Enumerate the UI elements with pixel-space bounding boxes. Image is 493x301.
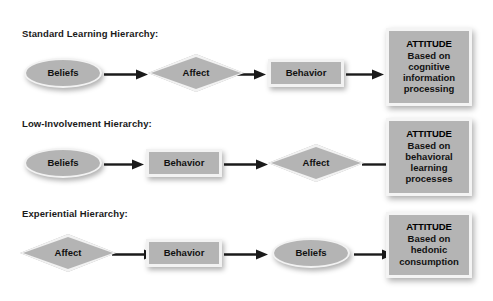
- node-beliefs-row2[interactable]: Beliefs: [24, 148, 102, 178]
- attitude-title-row2: ATTITUDE: [406, 129, 451, 140]
- node-behavior-row2[interactable]: Behavior: [146, 149, 222, 177]
- arrow-row1-1: [104, 69, 148, 80]
- node-behavior-row3[interactable]: Behavior: [146, 239, 222, 267]
- node-behavior-row1[interactable]: Behavior: [268, 59, 344, 87]
- attitude-description-row1: Based on cognitive information processin…: [392, 50, 466, 95]
- node-label-behavior-row1: Behavior: [286, 68, 327, 78]
- node-label-affect-row1: Affect: [183, 68, 210, 78]
- node-affect-row3[interactable]: Affect: [20, 234, 116, 272]
- node-label-behavior-row2: Behavior: [164, 158, 205, 168]
- arrow-row3-2: [224, 249, 268, 260]
- row-label-low-involvement: Low-Involvement Hierarchy:: [22, 118, 152, 129]
- node-label-affect-row2: Affect: [303, 158, 330, 168]
- row-label-standard-learning: Standard Learning Hierarchy:: [22, 28, 158, 39]
- attitude-description-row2: Based on behavioral learning processes: [392, 140, 466, 185]
- attitude-description-row3: Based on hedonic consumption: [392, 233, 466, 267]
- node-label-beliefs-row2: Beliefs: [47, 158, 78, 168]
- arrow-row2-1: [104, 159, 144, 170]
- attitude-title-row1: ATTITUDE: [406, 39, 451, 50]
- node-label-behavior-row3: Behavior: [164, 248, 205, 258]
- node-label-beliefs-row3: Beliefs: [295, 248, 326, 258]
- node-beliefs-row3[interactable]: Beliefs: [272, 238, 350, 268]
- attitude-box-row2[interactable]: ATTITUDE Based on behavioral learning pr…: [386, 118, 472, 196]
- attitude-box-row3[interactable]: ATTITUDE Based on hedonic consumption: [386, 212, 472, 278]
- attitude-title-row3: ATTITUDE: [406, 222, 451, 233]
- attitude-box-row1[interactable]: ATTITUDE Based on cognitive information …: [386, 28, 472, 106]
- node-label-beliefs-row1: Beliefs: [47, 68, 78, 78]
- node-label-affect-row3: Affect: [55, 248, 82, 258]
- node-affect-row1[interactable]: Affect: [148, 54, 244, 92]
- arrow-row2-2: [224, 159, 268, 170]
- row-label-experiential: Experiential Hierarchy:: [22, 208, 128, 219]
- hierarchy-of-effects-diagram: Standard Learning Hierarchy: Beliefs Aff…: [0, 0, 493, 301]
- arrow-row1-3: [346, 69, 384, 80]
- node-beliefs-row1[interactable]: Beliefs: [24, 58, 102, 88]
- node-affect-row2[interactable]: Affect: [268, 144, 364, 182]
